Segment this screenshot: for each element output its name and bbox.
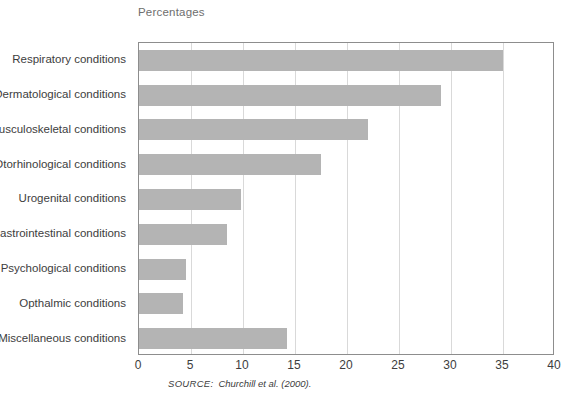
x-tick-label: 10 bbox=[235, 358, 248, 372]
source-text: Churchill et al. (2000). bbox=[218, 378, 311, 389]
bars-layer bbox=[139, 43, 553, 354]
bar bbox=[139, 50, 503, 71]
x-tick-label: 40 bbox=[547, 358, 560, 372]
source-note: SOURCE:Churchill et al. (2000). bbox=[168, 378, 311, 389]
chart-title: Percentages bbox=[138, 6, 205, 18]
bar bbox=[139, 293, 183, 314]
plot-area bbox=[138, 42, 554, 355]
category-label: Miscellaneous conditions bbox=[0, 320, 132, 355]
category-label: Otorhinological conditions bbox=[0, 146, 132, 181]
bar-row bbox=[139, 113, 553, 148]
category-label: Respiratory conditions bbox=[0, 42, 132, 77]
x-tick-label: 25 bbox=[391, 358, 404, 372]
category-label: Dermatological conditions bbox=[0, 77, 132, 112]
bar-row bbox=[139, 252, 553, 287]
x-axis-tick-labels: 0510152025303540 bbox=[138, 358, 554, 376]
category-label: Urogenital conditions bbox=[0, 181, 132, 216]
bar-row bbox=[139, 217, 553, 252]
category-label: Musculoskeletal conditions bbox=[0, 112, 132, 147]
x-tick-label: 30 bbox=[443, 358, 456, 372]
x-tick-label: 0 bbox=[135, 358, 142, 372]
category-axis-labels: Respiratory conditions Dermatological co… bbox=[0, 42, 132, 355]
bar-row bbox=[139, 43, 553, 78]
bar bbox=[139, 119, 368, 140]
category-label: Gastrointestinal conditions bbox=[0, 216, 132, 251]
bar-row bbox=[139, 182, 553, 217]
category-label: Psychological conditions bbox=[0, 251, 132, 286]
x-tick-label: 20 bbox=[339, 358, 352, 372]
source-label: SOURCE: bbox=[168, 378, 213, 389]
bar bbox=[139, 85, 441, 106]
bar-row bbox=[139, 78, 553, 113]
bar-row bbox=[139, 286, 553, 321]
bar-chart-figure: Percentages Respiratory conditions Derma… bbox=[0, 0, 582, 400]
bar-row bbox=[139, 147, 553, 182]
category-label: Opthalmic conditions bbox=[0, 285, 132, 320]
bar bbox=[139, 328, 287, 349]
bar bbox=[139, 259, 186, 280]
x-tick-label: 35 bbox=[495, 358, 508, 372]
x-tick-label: 5 bbox=[187, 358, 194, 372]
bar bbox=[139, 189, 241, 210]
bar bbox=[139, 224, 227, 245]
x-tick-label: 15 bbox=[287, 358, 300, 372]
bar-row bbox=[139, 321, 553, 356]
bar bbox=[139, 154, 321, 175]
